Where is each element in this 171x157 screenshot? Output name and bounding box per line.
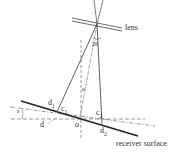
receiver-surface-line [21,101,138,136]
ray-top-right [97,0,103,24]
d1-label: d1 [48,99,55,109]
d-label: d [40,121,44,129]
lens-label: lens [125,24,138,32]
c2-label: c2 [96,109,103,119]
ray-left [57,24,97,112]
tilt-reference-line [10,107,155,126]
d-leader [48,117,57,124]
d2-label: d2 [100,127,107,137]
ray-center-dashdot [80,24,97,118]
optics-diagram [0,0,171,157]
epsilon-label: ε [17,108,20,114]
receiver-surface-label: receiver surface [116,140,167,148]
ray-top-left [94,0,97,24]
o-label: o [75,121,79,129]
c1-label: c1 [61,105,68,115]
epsilon-arc [22,108,23,119]
e-label: e [82,86,85,92]
two-theta-label: 2θ [92,41,98,47]
